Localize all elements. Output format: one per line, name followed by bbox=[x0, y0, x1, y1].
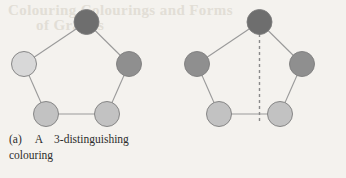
figure-panel-a: (a)A3-distinguishing colouring bbox=[0, 0, 173, 178]
graph-vertex-upper-left bbox=[185, 52, 210, 77]
caption-a-line-1: (a)A3-distinguishing bbox=[9, 131, 129, 147]
graph-vertex-upper-right bbox=[117, 52, 142, 77]
caption-a-term: 3-distinguishing bbox=[54, 133, 129, 145]
graph-vertex-top bbox=[247, 10, 272, 35]
figure-panel-b: (b)Anon-distinguishing colouring bbox=[173, 0, 346, 178]
pentagon-graph-b bbox=[173, 0, 346, 132]
graph-vertex-bottom-right bbox=[268, 102, 293, 127]
figure-root: Colouring Colourings and Forms of Graphs… bbox=[0, 0, 346, 178]
graph-vertex-bottom-left bbox=[34, 102, 59, 127]
figure-caption-a: (a)A3-distinguishing colouring bbox=[9, 131, 129, 164]
pentagon-graph-a bbox=[0, 0, 173, 132]
caption-a-line-2: colouring bbox=[9, 147, 129, 163]
graph-vertex-upper-right bbox=[290, 52, 315, 77]
caption-a-tag: (a) bbox=[9, 133, 22, 145]
graph-vertex-bottom-left bbox=[207, 102, 232, 127]
graph-vertex-top bbox=[74, 10, 99, 35]
graph-vertex-upper-left bbox=[12, 52, 37, 77]
graph-vertex-bottom-right bbox=[95, 102, 120, 127]
caption-a-article: A bbox=[35, 133, 43, 145]
